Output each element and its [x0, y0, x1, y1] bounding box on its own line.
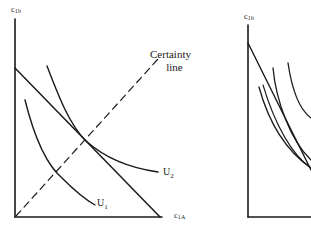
y-axis-label-sub: 1b [15, 8, 21, 14]
indifference-curve-u1 [25, 100, 95, 205]
diagram-canvas [0, 0, 311, 233]
u1-label-sub: 1 [104, 203, 108, 211]
left-panel [15, 19, 162, 217]
u2-label: U2 [163, 166, 174, 180]
u2-label-sub: 2 [170, 172, 174, 180]
right-y-axis-label: c1b [244, 12, 254, 21]
certainty-label-line2: line [150, 61, 191, 74]
right-curve-3 [288, 63, 311, 118]
certainty-label-line1: Certainty [150, 48, 191, 61]
left-y-axis-label: c1b [11, 5, 21, 14]
u1-label: U1 [97, 197, 108, 211]
x-axis-label-sub: 1A [178, 214, 186, 220]
certainty-line-label: Certainty line [150, 48, 191, 74]
left-x-axis-label: c1A [174, 211, 186, 220]
right-panel [248, 25, 311, 217]
right-y-label-sub: 1b [248, 15, 254, 21]
